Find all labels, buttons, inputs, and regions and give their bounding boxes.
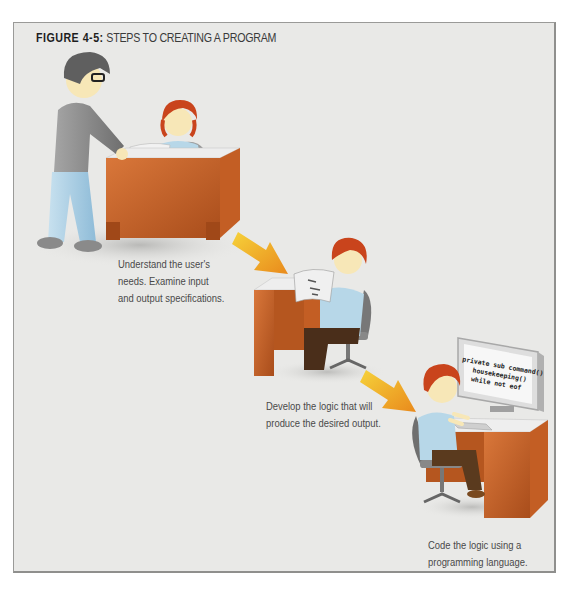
programmer-reading-illustration xyxy=(252,232,382,382)
scene-step-3: private sub command() housekeeping() whi… xyxy=(412,332,552,522)
arrow-step-2-to-3 xyxy=(360,370,418,414)
caption-line: needs. Examine input xyxy=(118,273,224,290)
caption-step-3: Code the logic using a programming langu… xyxy=(428,537,528,571)
caption-line: Understand the user's xyxy=(118,256,224,273)
caption-step-1: Understand the user's needs. Examine inp… xyxy=(118,256,224,307)
figure-title-text: STEPS TO CREATING A PROGRAM xyxy=(106,30,276,45)
programmer-coding-illustration: private sub command() housekeeping() whi… xyxy=(412,332,552,522)
scene-step-1 xyxy=(30,50,250,265)
computer-monitor: private sub command() housekeeping() whi… xyxy=(458,338,544,412)
analyst-and-user-illustration xyxy=(30,50,250,265)
caption-line: programming language. xyxy=(428,554,528,571)
figure-title: FIGURE 4-5: STEPS TO CREATING A PROGRAM xyxy=(36,30,276,45)
caption-line: Code the logic using a xyxy=(428,537,528,554)
caption-line: and output specifications. xyxy=(118,290,224,307)
figure-label: FIGURE 4-5: xyxy=(36,30,104,45)
scene-step-2 xyxy=(252,232,382,382)
caption-line: produce the desired output. xyxy=(266,415,381,432)
arrow-right-down-icon xyxy=(360,370,418,414)
